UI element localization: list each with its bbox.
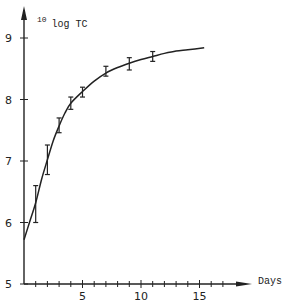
y-tick-label: 6 xyxy=(5,217,12,230)
fitted-curve-line xyxy=(24,48,204,240)
error-bar xyxy=(33,186,38,223)
x-tick-label: 10 xyxy=(134,290,148,303)
axes xyxy=(21,6,252,287)
y-axis-label-main: log TC xyxy=(52,19,88,30)
x-tick-label: 15 xyxy=(193,290,207,303)
error-bars xyxy=(33,52,155,223)
chart: 5101556789 Days 10 log TC xyxy=(0,0,287,303)
y-axis-label-superscript: 10 xyxy=(37,15,47,24)
y-tick-label: 9 xyxy=(5,32,12,45)
error-bar xyxy=(80,87,85,97)
y-tick-label: 5 xyxy=(5,278,12,291)
x-tick-label: 5 xyxy=(79,290,86,303)
x-axis-label: Days xyxy=(258,276,282,287)
fitted-curve xyxy=(24,48,204,240)
axis-ticks: 5101556789 xyxy=(5,32,223,303)
error-bar xyxy=(45,145,50,175)
y-axis-label: 10 log TC xyxy=(37,8,88,30)
error-bar xyxy=(68,97,73,109)
x-axis-arrow-icon xyxy=(236,282,252,287)
y-axis-arrow-icon xyxy=(21,6,27,20)
y-tick-label: 7 xyxy=(5,155,12,168)
y-tick-label: 8 xyxy=(5,94,12,107)
